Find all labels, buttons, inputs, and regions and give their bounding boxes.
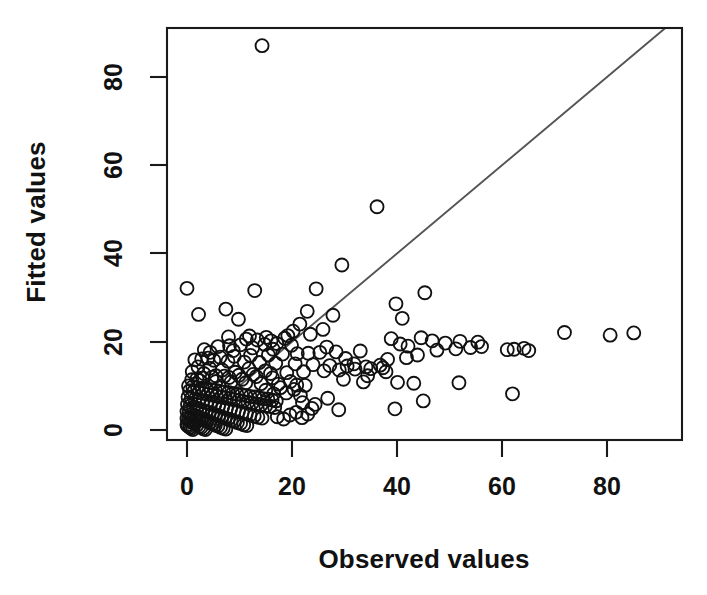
data-points-layer bbox=[181, 39, 641, 436]
data-point bbox=[243, 330, 256, 343]
data-point bbox=[219, 303, 232, 316]
data-point bbox=[222, 330, 235, 343]
data-point bbox=[354, 345, 367, 358]
y-tick-label-0: 0 bbox=[99, 423, 127, 437]
data-point bbox=[297, 365, 310, 378]
y-axis-title: Fitted values bbox=[21, 141, 51, 303]
data-point bbox=[181, 282, 194, 295]
y-axis-ticks bbox=[150, 77, 167, 430]
x-tick-label-20: 20 bbox=[278, 472, 306, 500]
data-point bbox=[627, 326, 640, 339]
y-axis-tick-labels: 0 20 40 60 80 bbox=[99, 63, 127, 437]
data-point bbox=[321, 392, 334, 405]
x-axis-ticks bbox=[187, 440, 607, 457]
data-point bbox=[506, 387, 519, 400]
data-point bbox=[417, 394, 430, 407]
y-tick-label-40: 40 bbox=[99, 239, 127, 267]
data-point bbox=[558, 326, 571, 339]
data-point bbox=[256, 39, 269, 52]
scatter-plot-figure: 0 20 40 60 80 0 20 40 60 80 Observed val… bbox=[0, 0, 707, 595]
data-point bbox=[326, 309, 339, 322]
data-point bbox=[449, 342, 462, 355]
x-axis-tick-labels: 0 20 40 60 80 bbox=[180, 472, 621, 500]
x-tick-label-60: 60 bbox=[488, 472, 516, 500]
data-point bbox=[316, 323, 329, 336]
data-point bbox=[418, 286, 431, 299]
x-tick-label-40: 40 bbox=[383, 472, 411, 500]
y-tick-label-20: 20 bbox=[99, 328, 127, 356]
data-point bbox=[604, 329, 617, 342]
data-point bbox=[332, 403, 345, 416]
data-point bbox=[388, 402, 401, 415]
data-point bbox=[248, 284, 261, 297]
x-tick-label-0: 0 bbox=[180, 472, 194, 500]
data-point bbox=[389, 297, 402, 310]
data-point bbox=[371, 200, 384, 213]
data-point bbox=[452, 376, 465, 389]
data-point bbox=[522, 344, 535, 357]
plot-canvas: 0 20 40 60 80 0 20 40 60 80 Observed val… bbox=[0, 0, 707, 595]
data-point bbox=[232, 313, 245, 326]
data-point bbox=[391, 376, 404, 389]
y-tick-label-80: 80 bbox=[99, 63, 127, 91]
data-point bbox=[407, 377, 420, 390]
data-point bbox=[310, 282, 323, 295]
y-tick-label-60: 60 bbox=[99, 151, 127, 179]
x-axis-title: Observed values bbox=[318, 544, 529, 574]
data-point bbox=[301, 305, 314, 318]
data-point bbox=[335, 258, 348, 271]
x-tick-label-80: 80 bbox=[593, 472, 621, 500]
data-point bbox=[396, 312, 409, 325]
data-point bbox=[309, 398, 322, 411]
data-point bbox=[304, 328, 317, 341]
data-point bbox=[192, 308, 205, 321]
